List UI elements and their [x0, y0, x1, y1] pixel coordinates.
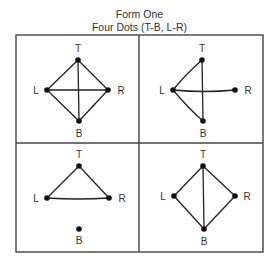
- label-left: L: [159, 85, 165, 96]
- panel-bottom-left: T L R B: [33, 149, 125, 246]
- label-bottom: B: [76, 235, 83, 246]
- panel-top-right: T L R B: [159, 43, 251, 139]
- dot-right: [105, 87, 111, 93]
- dot-top: [75, 57, 81, 63]
- dot-bottom: [76, 226, 82, 232]
- dot-right: [232, 193, 238, 199]
- label-top: T: [200, 149, 206, 160]
- edges: [173, 60, 235, 121]
- dot-left: [170, 87, 176, 93]
- dot-right: [232, 87, 238, 93]
- dots: [44, 163, 112, 232]
- label-right: R: [243, 191, 250, 202]
- dot-left: [171, 193, 177, 199]
- edges: [174, 166, 235, 229]
- label-top: T: [75, 43, 81, 54]
- dot-right: [106, 195, 112, 201]
- label-left: L: [33, 85, 39, 96]
- grid-frame: [16, 35, 263, 252]
- label-bottom: B: [200, 128, 207, 139]
- label-top: T: [76, 149, 82, 160]
- dot-top: [76, 163, 82, 169]
- panel-bottom-right: T L R B: [160, 149, 250, 247]
- label-left: L: [160, 191, 166, 202]
- edges: [47, 166, 109, 199]
- dot-bottom: [76, 118, 82, 124]
- label-top: T: [199, 43, 205, 54]
- dot-bottom: [201, 226, 207, 232]
- dot-top: [199, 57, 205, 63]
- dot-left: [44, 87, 50, 93]
- panel-top-left: T L R B: [33, 43, 124, 139]
- label-left: L: [33, 193, 39, 204]
- label-bottom: B: [201, 236, 208, 247]
- edges: [47, 60, 108, 121]
- label-bottom: B: [76, 128, 83, 139]
- label-right: R: [118, 193, 125, 204]
- dot-bottom: [200, 118, 206, 124]
- dot-top: [200, 163, 206, 169]
- dot-left: [44, 195, 50, 201]
- four-dots-grid: T L R B T L R B: [0, 0, 279, 262]
- label-right: R: [244, 85, 251, 96]
- label-right: R: [117, 85, 124, 96]
